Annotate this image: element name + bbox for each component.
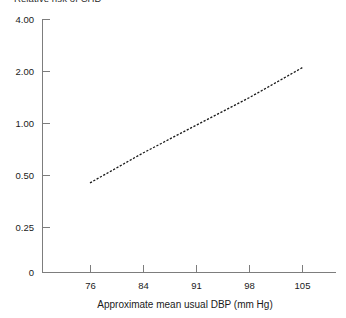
x-tick-label-91: 91 (191, 280, 202, 291)
y-tick-label-4: 4.00 (16, 14, 35, 25)
y-tick-label-0-25: 0.25 (16, 222, 35, 233)
chart-plot-area: 4.00 2.00 1.00 0.50 0.25 0 76 84 91 98 1… (0, 0, 346, 318)
x-axis-title: Approximate mean usual DBP (mm Hg) (97, 299, 272, 310)
chart-container: Relative risk of CHD 4.00 2.00 1.00 0.50… (0, 0, 346, 318)
x-tick-label-105: 105 (295, 280, 311, 291)
x-axis-ticks (91, 265, 303, 273)
y-tick-label-2: 2.00 (16, 66, 35, 77)
x-tick-label-76: 76 (85, 280, 96, 291)
y-tick-label-0: 0 (29, 267, 34, 278)
y-tick-label-0-50: 0.50 (16, 170, 35, 181)
x-tick-label-84: 84 (138, 280, 149, 291)
x-tick-label-98: 98 (244, 280, 255, 291)
series-line-relative-risk (90, 67, 303, 183)
y-tick-label-1: 1.00 (16, 118, 35, 129)
y-axis-ticks (43, 20, 51, 228)
